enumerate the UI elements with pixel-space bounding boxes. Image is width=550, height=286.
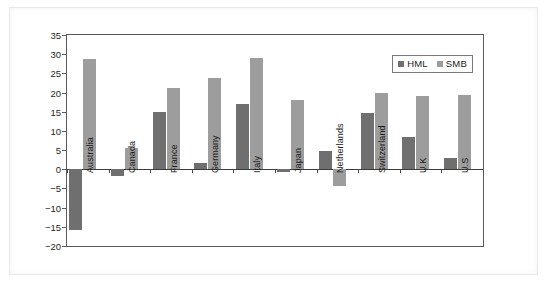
x-tick-mark <box>441 169 442 173</box>
category-label: Germany <box>210 136 220 174</box>
legend-swatch-smb <box>437 61 443 67</box>
bar-hml-us <box>444 158 457 169</box>
page-frame: Past Year Return (%) 35302520151050−5−10… <box>9 7 538 275</box>
bar-hml-netherlands <box>319 151 332 169</box>
bar-smb-italy <box>250 58 263 169</box>
x-tick-mark <box>150 169 151 173</box>
category-label: Australia <box>85 137 95 173</box>
bar-hml-japan <box>277 169 290 172</box>
legend-entry-hml: HML <box>398 58 428 69</box>
x-tick-mark <box>67 169 68 173</box>
category-label: Japan <box>293 148 303 173</box>
legend-entry-smb: SMB <box>437 58 467 69</box>
category-label: Italy <box>252 156 262 173</box>
category-label: U.S <box>460 158 470 173</box>
category-label: France <box>169 145 179 174</box>
y-tick-label: 35 <box>50 30 61 41</box>
bar-hml-germany <box>194 163 207 169</box>
x-tick-mark <box>192 169 193 173</box>
x-tick-mark <box>109 169 110 173</box>
y-tick-label: −20 <box>45 241 61 252</box>
bar-hml-canada <box>111 169 124 176</box>
figure-root: Past Year Return (%) 35302520151050−5−10… <box>0 0 550 286</box>
y-tick-label: 0 <box>56 164 61 175</box>
category-label: Netherlands <box>335 124 345 174</box>
legend-label: SMB <box>446 58 467 69</box>
y-axis-ticks: 35302520151050−5−10−15−20 <box>10 8 66 221</box>
bar-hml-uk <box>402 137 415 169</box>
y-tick-label: −5 <box>50 183 61 194</box>
y-tick-label: 25 <box>50 68 61 79</box>
bar-hml-france <box>153 112 166 170</box>
bar-hml-switzerland <box>361 113 374 169</box>
y-tick-label: 10 <box>50 125 61 136</box>
bar-hml-italy <box>236 104 249 169</box>
x-tick-mark <box>275 169 276 173</box>
y-tick-label: 20 <box>50 87 61 98</box>
y-tick-label: 30 <box>50 49 61 60</box>
y-tick-label: 15 <box>50 106 61 117</box>
x-tick-mark <box>233 169 234 173</box>
legend-label: HML <box>407 58 428 69</box>
chart-legend: HMLSMB <box>392 55 473 73</box>
category-label: U.K <box>418 158 428 173</box>
x-tick-mark <box>400 169 401 173</box>
legend-swatch-hml <box>398 61 404 67</box>
y-tick-label: 5 <box>56 145 61 156</box>
chart-plot-box: AustraliaCanadaFranceGermanyItalyJapanNe… <box>66 34 484 247</box>
y-tick-label: −10 <box>45 202 61 213</box>
x-tick-mark <box>317 169 318 173</box>
category-label: Canada <box>127 141 137 173</box>
x-tick-mark <box>358 169 359 173</box>
bar-hml-australia <box>69 169 82 230</box>
category-label: Switzerland <box>377 126 387 174</box>
y-tick-label: −15 <box>45 221 61 232</box>
